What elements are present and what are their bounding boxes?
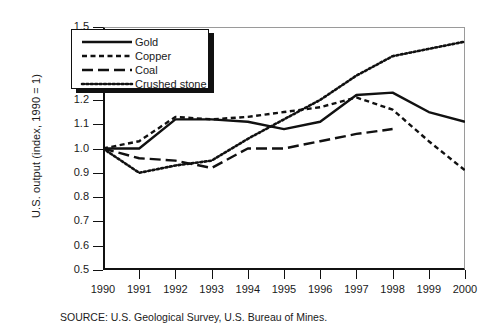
x-tick-mark	[356, 270, 357, 279]
y-tick-mark	[93, 124, 103, 125]
x-tick-mark	[465, 270, 466, 279]
legend-label: Gold	[135, 36, 158, 48]
legend-label: Copper	[135, 50, 171, 62]
y-tick-mark	[93, 221, 103, 222]
x-tick-mark	[212, 270, 213, 279]
y-tick-mark	[93, 246, 103, 247]
legend-item-gold[interactable]: Gold	[72, 35, 208, 48]
x-tick-mark	[393, 270, 394, 279]
y-tick-label: 0.7	[44, 214, 89, 226]
legend-label: Crushed stone	[135, 78, 207, 90]
y-tick-mark	[93, 100, 103, 101]
legend-item-coal[interactable]: Coal	[72, 63, 208, 76]
x-tick-mark	[429, 270, 430, 279]
x-tick-mark	[248, 270, 249, 279]
x-tick-mark	[320, 270, 321, 279]
legend-item-crushed-stone[interactable]: Crushed stone	[72, 77, 208, 90]
y-tick-label: 1.2	[44, 93, 89, 105]
y-tick-label: 1.1	[44, 117, 89, 129]
x-tick-label: 2000	[439, 283, 491, 295]
y-tick-mark	[93, 197, 103, 198]
x-tick-mark	[175, 270, 176, 279]
source-note: SOURCE: U.S. Geological Survey, U.S. Bur…	[60, 311, 327, 323]
chart-legend: GoldCopperCoalCrushed stone	[71, 29, 209, 89]
legend-swatch-icon	[80, 78, 135, 90]
chart-figure: U.S. output (index, 1990 = 1) 1.51.41.31…	[0, 0, 501, 335]
y-tick-mark	[93, 270, 103, 271]
y-tick-label: 0.6	[44, 239, 89, 251]
y-tick-mark	[93, 173, 103, 174]
y-tick-label: 1.0	[44, 142, 89, 154]
y-axis-title: U.S. output (index, 1990 = 1)	[30, 36, 42, 256]
legend-swatch-icon	[80, 36, 135, 48]
legend-item-copper[interactable]: Copper	[72, 49, 208, 62]
x-tick-mark	[139, 270, 140, 279]
x-tick-mark	[284, 270, 285, 279]
legend-swatch-icon	[80, 50, 135, 62]
legend-label: Coal	[135, 64, 158, 76]
y-tick-mark	[93, 149, 103, 150]
y-tick-label: 0.9	[44, 166, 89, 178]
y-tick-label: 0.5	[44, 263, 89, 275]
y-tick-label: 0.8	[44, 190, 89, 202]
legend-swatch-icon	[80, 64, 135, 76]
y-tick-mark	[93, 27, 103, 28]
